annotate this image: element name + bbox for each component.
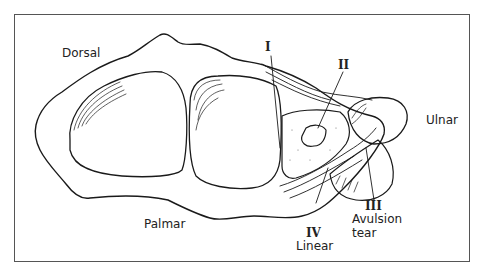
leader-iii (366, 148, 374, 200)
radius-outline (35, 34, 384, 219)
scaphoid-fossa (70, 72, 187, 177)
label-palmar: Palmar (144, 218, 185, 231)
label-ulnar: Ulnar (426, 114, 458, 127)
lunate-fossa (189, 75, 281, 188)
ulnar-head (348, 98, 407, 144)
tear-ii-lesion (302, 125, 326, 146)
wrist-cross-section-drawing (0, 0, 484, 277)
label-avulsion: Avulsion (352, 213, 402, 226)
label-tear: tear (352, 227, 376, 240)
ulnar-styloid (330, 140, 393, 200)
label-tear-i: I (265, 41, 271, 54)
label-dorsal: Dorsal (62, 47, 100, 60)
leader-ii (318, 72, 343, 128)
label-tear-ii: II (338, 59, 349, 72)
label-linear: Linear (296, 240, 333, 253)
